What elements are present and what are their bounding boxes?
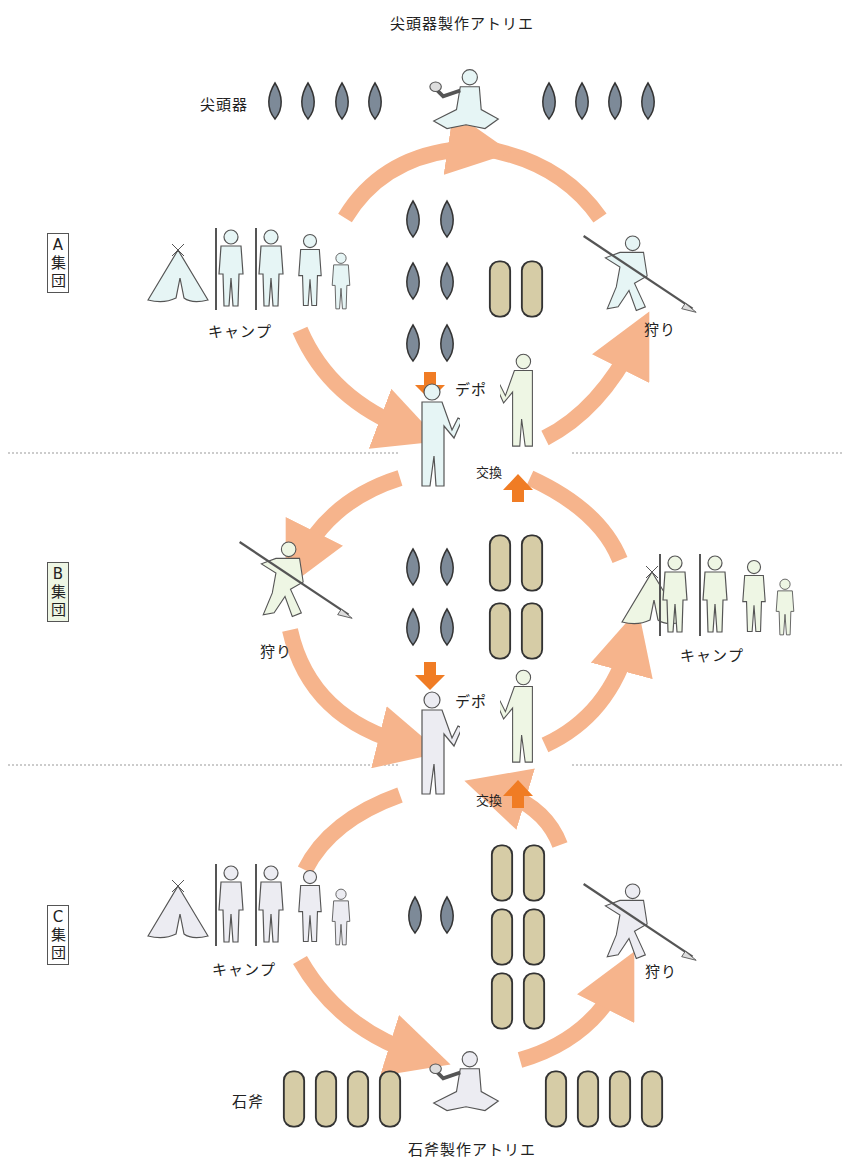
hunt-b-label: 狩り	[260, 640, 292, 661]
exchange-ab-label: 交換	[476, 462, 502, 481]
camp-a-label: キャンプ	[208, 320, 272, 341]
depot-b-label: デポ	[455, 690, 487, 711]
point-atelier-title: 尖頭器製作アトリエ	[390, 12, 534, 33]
group-a-label: A 集 団	[47, 233, 69, 293]
top-points-left	[269, 83, 381, 119]
exchange-bc-label: 交換	[476, 790, 502, 809]
depot-a-label: デポ	[455, 378, 487, 399]
camp-b-label: キャンプ	[680, 644, 744, 665]
hunt-a-label: 狩り	[644, 318, 676, 339]
hunt-c-label: 狩り	[645, 960, 677, 981]
point-label: 尖頭器	[200, 93, 248, 114]
camp-c-label: キャンプ	[212, 958, 276, 979]
group-c-label: C 集 団	[47, 905, 69, 965]
axe-atelier-title: 石斧製作アトリエ	[408, 1138, 536, 1159]
axe-label: 石斧	[232, 1090, 264, 1111]
group-b-label: B 集 団	[47, 562, 69, 622]
exchange-network-diagram: 尖頭器製作アトリエ 尖頭器 A 集 団 キャンプ 狩り デポ 交換 B 集 団 …	[0, 0, 851, 1176]
